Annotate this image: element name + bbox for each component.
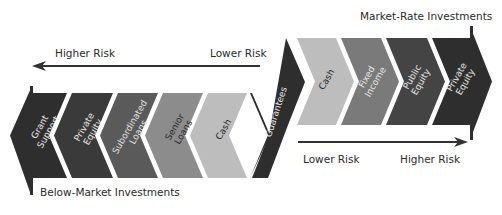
top-risk-arrow <box>32 61 260 71</box>
top-arrow-higher-risk-label: Higher Risk <box>55 47 116 59</box>
market-rate-arrow: CashFixedIncomePublicEquityPrivateEquity <box>297 26 492 140</box>
market-rate-investments-label: Market-Rate Investments <box>360 10 492 22</box>
below-market-investments-label: Below-Market Investments <box>40 186 180 198</box>
bottom-arrow-higher-risk-label: Higher Risk <box>400 153 461 165</box>
below-market-arrow: GrantSupportPrivateEquitySubordinatedLoa… <box>10 86 247 195</box>
investment-risk-diagram: Higher Risk Lower Risk Market-Rate Inves… <box>0 0 502 215</box>
top-arrow-lower-risk-label: Lower Risk <box>210 47 267 59</box>
bottom-arrow-lower-risk-label: Lower Risk <box>303 153 360 165</box>
bottom-risk-arrow <box>298 137 468 147</box>
guarantees-segment: Guarantees <box>250 38 305 178</box>
